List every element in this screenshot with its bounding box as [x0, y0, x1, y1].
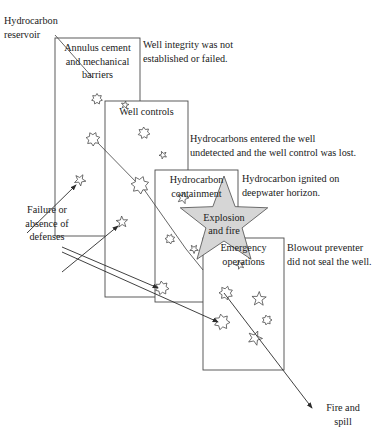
annotation-failure-absence-of-defenses: Failure or absence of defenses	[6, 203, 88, 244]
slice-title-emergency-operations: Emergency operations	[203, 241, 284, 268]
annotation-fire-and-spill: Fire and spill	[313, 401, 373, 428]
explosion-and-fire-label: Explosion and fire	[181, 211, 267, 237]
swiss-cheese-diagram: Annulus cement and mechanical barriers W…	[0, 0, 388, 440]
annotation-hydrocarbon-ignited: Hydrocarbon ignited on deepwater horizon…	[242, 172, 388, 199]
slice-title-well-controls: Well controls	[105, 105, 188, 119]
annotation-hydrocarbon-reservoir: Hydrocarbon reservoir	[4, 14, 92, 41]
annotation-blowout-preventer: Blowout preventer did not seal the well.	[287, 241, 388, 268]
slice-title-hydrocarbon-containment: Hydrocarbon containment	[155, 173, 238, 200]
annotation-hydrocarbons-entered: Hydrocarbons entered the well undetected…	[190, 132, 388, 159]
slice-title-annulus: Annulus cement and mechanical barriers	[55, 41, 140, 82]
annotation-well-integrity: Well integrity was not established or fa…	[143, 38, 293, 65]
slice-boxes-group	[55, 38, 284, 370]
